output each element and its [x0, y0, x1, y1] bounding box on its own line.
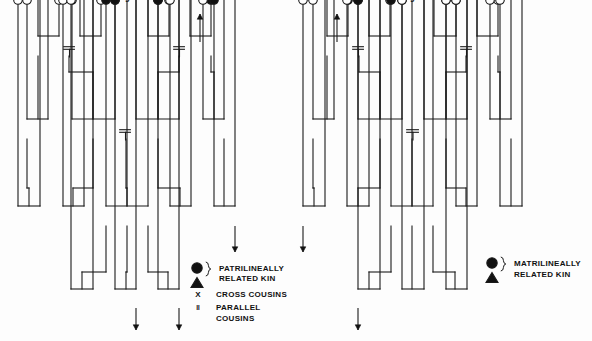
legend-parallel-cousins-line1: PARALLEL: [216, 303, 260, 312]
kin-node-female-filled[interactable]: [154, 0, 163, 4]
kin-node-female-filled[interactable]: [387, 0, 396, 4]
patriline-continues-down-1: [133, 308, 139, 330]
kin-node-female-open[interactable]: [23, 0, 32, 4]
legend-filled-triangle-icon: [191, 278, 203, 288]
legends-layer: PATRILINEALLYRELATED KINXCROSS COUSINS‖P…: [191, 257, 581, 323]
ego-label: Ego: [405, 0, 420, 2]
cross-cousin-marker: X: [475, 0, 480, 1]
arrow-head-icon: [355, 325, 361, 330]
parallel-cousin-marker: ‖: [212, 0, 215, 1]
kin-node-female-filled[interactable]: [354, 0, 363, 4]
legend-filled-circle-icon: [192, 263, 202, 273]
cross-cousin-marker: X: [189, 0, 194, 1]
patriline-continues-down-right: [232, 226, 238, 252]
parallel-cousin-marker: ‖: [233, 0, 236, 1]
cross-cousin-marker: X: [168, 0, 173, 1]
kin-node-female-open[interactable]: [309, 0, 318, 4]
matriline-continues-down-left: [300, 226, 306, 252]
kin-node-female-open[interactable]: [442, 0, 451, 4]
arrow-head-icon: [176, 325, 182, 330]
legend-cross-cousin-symbol: X: [195, 290, 201, 299]
kinship-diagram-svg: ‖‖XXEgoXX‖‖‖‖XXEgoXX‖‖ PATRILINEALLYRELA…: [0, 0, 592, 341]
legend-cross-cousins-label: CROSS COUSINS: [216, 290, 287, 299]
filled-circle-icon: [387, 0, 396, 4]
arrow-head-icon: [232, 247, 238, 252]
arrow-head-icon: [197, 14, 203, 19]
cross-cousin-marker: X: [82, 0, 87, 1]
open-circle-icon: [486, 0, 495, 4]
parallel-cousin-marker: ‖: [38, 0, 41, 1]
kin-node-female-filled[interactable]: [111, 0, 120, 4]
legend-patrilineally-line1: PATRILINEALLY: [219, 264, 284, 273]
patrilineal-legend: PATRILINEALLYRELATED KINXCROSS COUSINS‖P…: [191, 262, 287, 323]
open-circle-icon: [442, 0, 451, 4]
kin-node-female-open[interactable]: [67, 0, 76, 4]
kin-nodes-layer: [14, 0, 505, 4]
filled-circle-icon: [111, 0, 120, 4]
arrow-head-icon: [300, 247, 306, 252]
legend-matrilineally-line1: MATRILINEALLY: [514, 259, 581, 268]
open-circle-icon: [67, 0, 76, 4]
filled-circle-icon: [102, 0, 111, 4]
descent-lines-layer: [18, 0, 522, 289]
kin-node-female-open[interactable]: [486, 0, 495, 4]
parallel-cousin-marker: ‖: [498, 0, 501, 1]
parallel-cousin-marker: ‖: [301, 0, 304, 1]
legend-brace-icon: [501, 257, 506, 271]
filled-circle-icon: [154, 0, 163, 4]
parallel-cousin-marker: ‖: [16, 0, 19, 1]
patriline-continues-up: [197, 14, 203, 42]
matrilineal-legend: MATRILINEALLYRELATED KIN: [486, 257, 581, 283]
parallel-cousin-marker: ‖: [520, 0, 523, 1]
legend-patrilineally-line2: RELATED KIN: [219, 274, 275, 283]
filled-circle-icon: [354, 0, 363, 4]
cross-cousin-marker: X: [367, 0, 372, 1]
kinship-figure: ‖‖XXEgoXX‖‖‖‖XXEgoXX‖‖ PATRILINEALLYRELA…: [0, 0, 592, 341]
cross-cousin-marker: X: [61, 0, 66, 1]
legend-brace-icon: [206, 262, 211, 276]
open-circle-icon: [309, 0, 318, 4]
legend-matrilineally-line2: RELATED KIN: [514, 270, 570, 279]
legend-filled-triangle-icon: [486, 273, 498, 283]
patriline-continues-down-2: [176, 308, 182, 330]
open-circle-icon: [23, 0, 32, 4]
legend-parallel-cousin-symbol: ‖: [196, 303, 200, 312]
matriline-continues-up: [334, 14, 340, 42]
open-circle-icon: [199, 0, 208, 4]
parallel-cousin-marker: ‖: [323, 0, 326, 1]
kin-node-female-open[interactable]: [199, 0, 208, 4]
legend-parallel-cousins-line2: COUSINS: [216, 314, 255, 323]
legend-filled-circle-icon: [487, 258, 497, 268]
arrow-head-icon: [334, 14, 340, 19]
kin-node-female-filled[interactable]: [102, 0, 111, 4]
ego-label: Ego: [120, 0, 135, 2]
arrow-head-icon: [133, 325, 139, 330]
cross-cousin-marker: X: [454, 0, 459, 1]
matriline-continues-down-1: [355, 308, 361, 330]
cross-cousin-marker: X: [345, 0, 350, 1]
